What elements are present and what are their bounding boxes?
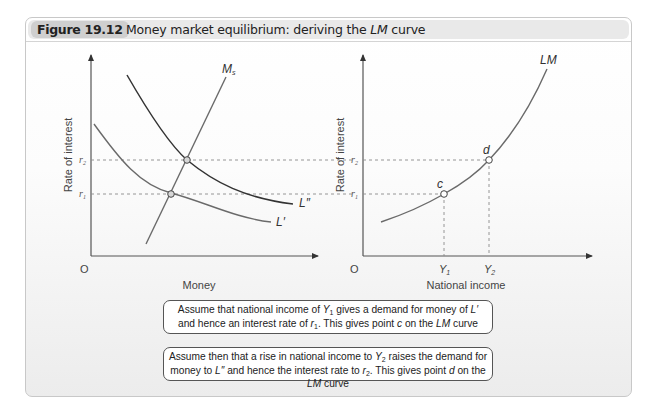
point-c-label: c — [437, 177, 443, 191]
lm-curve — [381, 69, 547, 222]
explanation-box-2: Assume then that a rise in national inco… — [163, 347, 493, 381]
left-r2-tick: r2 — [79, 154, 86, 166]
right-y-label: Rate of interest — [334, 118, 346, 193]
left-x-label: Money — [182, 279, 216, 291]
right-r1-tick: r1 — [351, 188, 358, 200]
point-d-label: d — [483, 143, 490, 157]
lm-label: LM — [540, 53, 557, 67]
right-origin: O — [350, 263, 359, 275]
demand-curve-l1 — [94, 124, 271, 222]
y1-tick: Y1 — [439, 263, 450, 276]
point-d-marker — [486, 157, 493, 164]
ms-label: Ms — [222, 62, 236, 76]
equilibrium-marker-r2 — [184, 157, 191, 164]
right-x-label: National income — [427, 279, 506, 291]
explanation-box-1: Assume that national income of Y1 gives … — [163, 300, 493, 334]
left-y-label: Rate of interest — [62, 118, 74, 193]
right-r2-tick: r2 — [351, 154, 358, 166]
lm-curve-chart: LM c d r2 r1 Y1 Y2 Rate of interest O Na… — [334, 53, 592, 291]
l2-label: L″ — [299, 196, 311, 210]
y2-tick: Y2 — [484, 263, 495, 276]
equilibrium-marker-r1 — [168, 191, 175, 198]
point-c-marker — [441, 191, 448, 198]
money-market-chart: Ms L″ L′ r2 r1 Rate of interest O Money — [62, 55, 355, 291]
l1-label: L′ — [276, 215, 286, 229]
left-r1-tick: r1 — [79, 188, 86, 200]
left-origin: O — [80, 263, 89, 275]
